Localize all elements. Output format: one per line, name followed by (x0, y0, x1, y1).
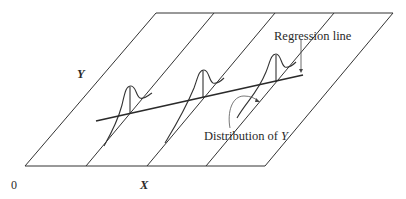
distribution-arrow (229, 96, 260, 128)
regression-line (96, 75, 303, 121)
x-axis-label: X (139, 178, 149, 192)
regression-line-label: Regression line (274, 29, 352, 43)
distribution-curve-3 (237, 54, 296, 118)
plane-slice-2 (147, 13, 275, 166)
y-axis-label: Y (77, 67, 86, 81)
distribution-label-var: Y (281, 129, 290, 143)
arrow-head-icon (255, 98, 260, 102)
distribution-label-text: Distribution of (204, 129, 281, 143)
origin-label: 0 (11, 178, 17, 192)
distribution-label: Distribution of Y (204, 129, 290, 143)
arrow-head-icon (299, 69, 303, 73)
regression-diagram: Y X 0 Regression line Distribution of Y (0, 0, 406, 199)
regression-arrow (299, 40, 303, 73)
